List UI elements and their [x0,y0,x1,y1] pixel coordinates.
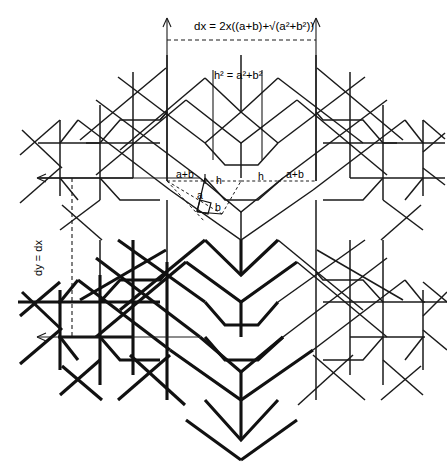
tiling-pattern-canvas: dx = 2x((a+b)+√(a²+b²)) h² = a²+b² a+b h… [0,0,447,475]
dy-formula-label: dy = dx [32,240,44,276]
segment-h-left-label: h [216,174,222,186]
right-angle-marker [197,200,211,214]
h-formula-label: h² = a²+b² [214,69,263,81]
segment-h-right-label: h [258,170,264,182]
tiling-lines-thin-upper [20,55,445,240]
tiling-lines-bold-lower [18,240,313,460]
leg-a-label: a [197,189,203,201]
dx-formula-label: dx = 2x((a+b)+√(a²+b²)) [194,20,314,32]
leg-b-label: b [215,201,221,213]
annotation-labels: dx = 2x((a+b)+√(a²+b²)) h² = a²+b² a+b h… [32,20,314,276]
geometric-diagram: dx = 2x((a+b)+√(a²+b²)) h² = a²+b² a+b h… [0,0,447,475]
tiling-lines-thin-lower-right [278,240,447,405]
construction-ray-lower [167,181,222,214]
segment-ab-right-label: a+b [286,168,304,180]
segment-ab-left-label: a+b [176,168,194,180]
